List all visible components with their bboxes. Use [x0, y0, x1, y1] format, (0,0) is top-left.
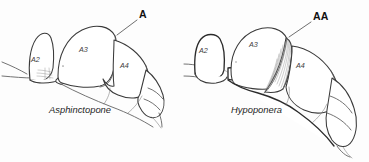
taxon-label-hypoponera: Hypoponera — [231, 104, 282, 115]
segment-a2-right — [195, 35, 225, 80]
substrate-line-left — [2, 76, 33, 78]
figure-plate: A A2 A3 A4 Asphinctopone — [0, 0, 369, 162]
propodeal-strut-left — [2, 62, 27, 74]
segment-a3-left — [58, 26, 117, 87]
segment-label-a4-left: A4 — [119, 61, 129, 70]
panel-asphinctopone: A A2 A3 A4 Asphinctopone — [2, 8, 164, 128]
segment-label-a2-right: A2 — [198, 46, 208, 55]
segment-label-a4-right: A4 — [295, 61, 305, 70]
taxon-label-asphinctopone: Asphinctopone — [48, 104, 111, 115]
pygidium-edge-left — [152, 117, 161, 128]
comparative-morphology-drawing: A A2 A3 A4 Asphinctopone — [0, 0, 369, 162]
punctation-dot-right — [235, 61, 237, 63]
sternite-suture-a4-left — [104, 88, 110, 104]
punctation-dot-left — [62, 65, 64, 67]
callout-label-aa: AA — [313, 10, 329, 22]
callout-label-a: A — [139, 8, 147, 20]
segment-label-a3-left: A3 — [78, 45, 88, 54]
segment-label-a2-left: A2 — [30, 55, 40, 64]
callout-leader-a — [117, 20, 137, 35]
segment-label-a3-right: A3 — [248, 40, 258, 49]
callout-leader-aa — [289, 22, 311, 37]
panel-hypoponera: AA A2 A3 A4 Hypoponera — [184, 10, 356, 158]
